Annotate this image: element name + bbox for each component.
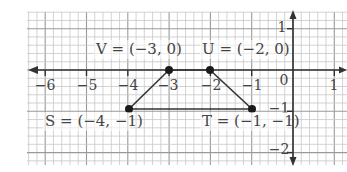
x-tick-label: −6 <box>35 77 56 93</box>
y-tick-label: −2 <box>269 141 290 157</box>
point-V <box>165 66 173 74</box>
y-axis-up-arrow-icon <box>290 10 297 19</box>
label-T: T = (−1, −1) <box>202 112 300 130</box>
x-axis-right-arrow-icon <box>339 67 347 74</box>
x-axis-left-arrow-icon <box>28 66 38 74</box>
point-U <box>206 66 214 74</box>
coordinate-plane-svg: −6 −5 −4 −3 −2 −1 0 1 1 −1 −2 V = (−3, 0… <box>0 0 347 172</box>
coordinate-plane-figure: −6 −5 −4 −3 −2 −1 0 1 1 −1 −2 V = (−3, 0… <box>0 0 347 172</box>
x-tick-label: −3 <box>158 77 179 93</box>
x-tick-label: −5 <box>77 77 98 93</box>
label-U: U = (−2, 0) <box>202 40 290 58</box>
y-axis-down-arrow-icon <box>290 157 297 166</box>
y-tick-label: 1 <box>278 19 287 35</box>
x-tick-label: 1 <box>330 77 339 93</box>
origin-label: 0 <box>280 72 289 88</box>
x-tick-label: −2 <box>201 77 222 93</box>
label-S: S = (−4, −1) <box>45 112 143 130</box>
x-tick-label: −1 <box>242 77 263 93</box>
x-tick-label: −4 <box>118 77 139 93</box>
graph-paper-grid <box>27 12 347 165</box>
label-V: V = (−3, 0) <box>95 40 182 58</box>
